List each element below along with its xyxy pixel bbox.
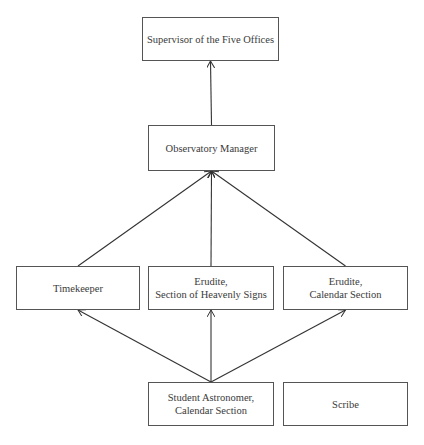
node-label: Erudite, Calendar Section: [309, 275, 381, 301]
node-label: Erudite, Section of Heavenly Signs: [155, 275, 267, 301]
edge-arrow: [78, 310, 211, 382]
node-timekeeper: Timekeeper: [16, 266, 140, 310]
node-student-astronomer: Student Astronomer, Calendar Section: [148, 382, 274, 426]
node-erudite-calendar: Erudite, Calendar Section: [283, 266, 408, 310]
node-label: Student Astronomer, Calendar Section: [168, 391, 255, 417]
edge-arrow: [211, 61, 212, 125]
node-supervisor: Supervisor of the Five Offices: [142, 17, 279, 61]
edge-arrow: [212, 171, 346, 266]
edge-arrow: [211, 310, 346, 382]
node-label: Timekeeper: [53, 282, 103, 295]
node-label: Scribe: [332, 398, 359, 411]
node-scribe: Scribe: [283, 382, 408, 426]
node-observatory-manager: Observatory Manager: [148, 125, 275, 171]
edges-layer: [0, 0, 424, 445]
node-label: Observatory Manager: [166, 142, 258, 155]
node-label: Supervisor of the Five Offices: [147, 33, 274, 46]
edge-arrow: [78, 171, 212, 266]
node-erudite-heavenly: Erudite, Section of Heavenly Signs: [148, 266, 274, 310]
edge-arrow: [211, 171, 212, 266]
